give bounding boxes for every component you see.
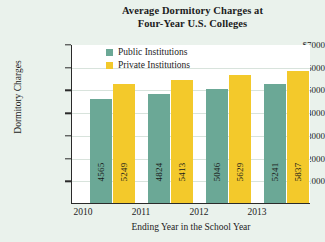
- bar-group-2012: 5046 5629: [200, 45, 257, 203]
- x-tick-label-2010: 2010: [53, 207, 113, 217]
- bar-value-private-2012: 5629: [235, 162, 245, 181]
- x-tick-label-2011: 2011: [111, 207, 171, 217]
- bar-private-2013[interactable]: 5837: [287, 71, 309, 204]
- legend-item-private[interactable]: Private Institutions: [106, 59, 190, 71]
- bar-value-private-2013: 5837: [293, 162, 303, 181]
- bar-public-2011[interactable]: 4824: [148, 94, 170, 204]
- bar-public-2010[interactable]: 4565: [90, 99, 112, 203]
- bar-value-public-2013: 5241: [270, 162, 280, 181]
- x-tick-label-2012: 2012: [169, 207, 229, 217]
- legend-item-public[interactable]: Public Institutions: [106, 46, 190, 58]
- x-tick-label-2013: 2013: [227, 207, 287, 217]
- bar-private-2010[interactable]: 5249: [113, 84, 135, 203]
- legend-swatch-private-icon: [106, 62, 113, 69]
- x-axis-title: Ending Year in the School Year: [71, 222, 311, 232]
- chart-title-line-1: Average Dormitory Charges at: [70, 5, 315, 18]
- bar-public-2013[interactable]: 5241: [264, 84, 286, 203]
- bar-value-public-2012: 5046: [212, 162, 222, 181]
- chart-legend: Public Institutions Private Institutions: [106, 46, 190, 72]
- chart-title-line-2: Four-Year U.S. Colleges: [70, 18, 315, 31]
- bar-group-2013: 5241 5837: [258, 45, 315, 203]
- chart-title: Average Dormitory Charges at Four-Year U…: [70, 5, 315, 30]
- bar-public-2012[interactable]: 5046: [206, 89, 228, 204]
- bar-private-2011[interactable]: 5413: [171, 80, 193, 203]
- bar-value-public-2011: 4824: [154, 162, 164, 181]
- legend-label-private: Private Institutions: [118, 60, 190, 70]
- chart-figure: Average Dormitory Charges at Four-Year U…: [0, 0, 325, 242]
- bar-private-2012[interactable]: 5629: [229, 75, 251, 203]
- legend-label-public: Public Institutions: [118, 47, 187, 57]
- legend-swatch-public-icon: [106, 49, 113, 56]
- bar-value-public-2010: 4565: [96, 162, 106, 181]
- y-axis-title: Dormitory Charges: [13, 37, 23, 157]
- bar-value-private-2010: 5249: [119, 162, 129, 181]
- bar-value-private-2011: 5413: [177, 162, 187, 181]
